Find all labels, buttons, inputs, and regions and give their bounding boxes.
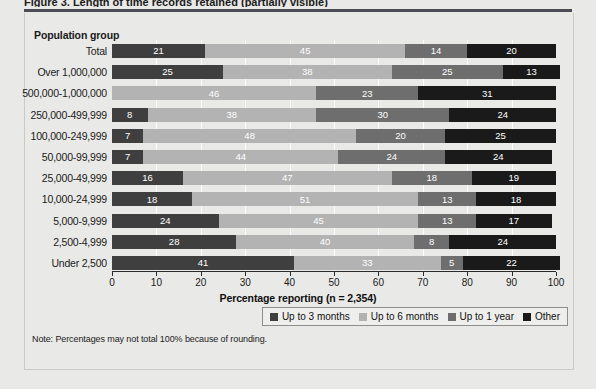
- bar-segment: 5: [441, 256, 463, 270]
- bar-segment: 25: [445, 129, 556, 143]
- chart-row: 500,000-1,000,0000462331: [0, 86, 596, 100]
- bar-segment: 7: [112, 150, 143, 164]
- x-axis-tick: [512, 272, 513, 276]
- bar-value-label: 13: [526, 67, 537, 77]
- x-axis-tick: [112, 272, 113, 276]
- bar-segment: 38: [148, 108, 317, 122]
- stacked-bar: 16471819: [0, 171, 596, 185]
- chart-row: 2,500-4,9992840824: [0, 235, 596, 249]
- bar-value-label: 18: [426, 173, 437, 183]
- legend-item[interactable]: Up to 3 months: [270, 311, 350, 322]
- stacked-bar: 0462331: [0, 86, 596, 100]
- bar-value-label: 14: [431, 46, 442, 56]
- bar-segment: 18: [392, 171, 472, 185]
- bar-value-label: 24: [386, 152, 397, 162]
- bar-value-label: 38: [302, 67, 313, 77]
- bar-value-label: 17: [509, 216, 520, 226]
- legend-item[interactable]: Up to 1 year: [448, 311, 514, 322]
- legend-label: Other: [535, 311, 560, 322]
- x-axis-tick-label: 90: [492, 277, 532, 288]
- bar-value-label: 20: [506, 46, 517, 56]
- stacked-bar: 8383024: [0, 108, 596, 122]
- stacked-bar: 2840824: [0, 235, 596, 249]
- bar-segment: 7: [112, 129, 143, 143]
- bar-value-label: 38: [227, 110, 238, 120]
- bar-segment: 51: [192, 192, 418, 206]
- bar-value-label: 24: [497, 110, 508, 120]
- bar-value-label: 51: [300, 195, 311, 205]
- bar-segment: 13: [503, 65, 561, 79]
- bar-segment: 8: [414, 235, 450, 249]
- x-axis-tick: [423, 272, 424, 276]
- bar-segment: 19: [472, 171, 556, 185]
- bar-segment: 17: [476, 214, 551, 228]
- x-axis-tick-label: 60: [358, 277, 398, 288]
- bar-segment: 25: [112, 65, 223, 79]
- bar-value-label: 40: [320, 237, 331, 247]
- x-axis-tick: [378, 272, 379, 276]
- bar-segment: 45: [219, 214, 419, 228]
- bar-segment: 14: [405, 44, 467, 58]
- legend-swatch-icon: [448, 313, 456, 321]
- stacked-bar: 21451420: [0, 44, 596, 58]
- stacked-bar: 4133522: [0, 256, 596, 270]
- bar-segment: 20: [356, 129, 445, 143]
- legend-item[interactable]: Up to 6 months: [359, 311, 439, 322]
- x-axis-tick-label: 40: [270, 277, 310, 288]
- bar-segment: 8: [112, 108, 148, 122]
- chart-row: Total21451420: [0, 44, 596, 58]
- chart-row: 250,000-499,9998383024: [0, 108, 596, 122]
- x-axis-tick-label: 80: [447, 277, 487, 288]
- bar-segment: 30: [316, 108, 449, 122]
- bar-segment: 31: [418, 86, 556, 100]
- bar-value-label: 25: [442, 67, 453, 77]
- bar-segment: 22: [463, 256, 561, 270]
- bar-segment: 13: [418, 214, 476, 228]
- chart-legend: Up to 3 monthsUp to 6 monthsUp to 1 year…: [262, 307, 568, 326]
- bar-value-label: 25: [162, 67, 173, 77]
- stacked-bar: 18511318: [0, 192, 596, 206]
- bar-value-label: 20: [395, 131, 406, 141]
- bar-value-label: 41: [198, 258, 209, 268]
- bar-value-label: 25: [495, 131, 506, 141]
- chart-row: 25,000-49,99916471819: [0, 171, 596, 185]
- x-axis-tick: [334, 272, 335, 276]
- bar-value-label: 24: [160, 216, 171, 226]
- bar-segment: 18: [112, 192, 192, 206]
- bar-segment: 45: [205, 44, 405, 58]
- legend-swatch-icon: [523, 313, 531, 321]
- chart-row: Over 1,000,00025382513: [0, 65, 596, 79]
- x-axis-tick-label: 20: [181, 277, 221, 288]
- chart-row: 5,000-9,99924451317: [0, 214, 596, 228]
- legend-label: Up to 1 year: [460, 311, 514, 322]
- bar-value-label: 28: [169, 237, 180, 247]
- chart-row: 100,000-249,9997482025: [0, 129, 596, 143]
- bar-value-label: 22: [506, 258, 517, 268]
- bar-segment: 13: [418, 192, 476, 206]
- x-axis-tick: [201, 272, 202, 276]
- bar-segment: 24: [449, 108, 556, 122]
- bar-value-label: 30: [378, 110, 389, 120]
- bar-value-label: 33: [362, 258, 373, 268]
- bar-segment: 20: [467, 44, 556, 58]
- chart-row: 10,000-24,99918511318: [0, 192, 596, 206]
- x-axis-tick-label: 50: [314, 277, 354, 288]
- legend-label: Up to 6 months: [371, 311, 439, 322]
- bar-value-label: 13: [442, 216, 453, 226]
- bar-segment: 47: [183, 171, 392, 185]
- bar-value-label: 24: [497, 237, 508, 247]
- bar-segment: 46: [112, 86, 316, 100]
- bar-value-label: 44: [235, 152, 246, 162]
- bar-value-label: 23: [362, 89, 373, 99]
- bar-value-label: 31: [482, 89, 493, 99]
- x-axis-tick-label: 0: [92, 277, 132, 288]
- stacked-bar: 7482025: [0, 129, 596, 143]
- bar-segment: 23: [316, 86, 418, 100]
- bar-segment: 41: [112, 256, 294, 270]
- bar-value-label: 5: [449, 258, 454, 268]
- x-axis-title: Percentage reporting (n = 2,354): [0, 292, 596, 304]
- figure-page: Figure 3. Length of time records retaine…: [0, 0, 596, 389]
- legend-item[interactable]: Other: [523, 311, 560, 322]
- bar-segment: 40: [236, 235, 414, 249]
- chart-plot-area: Total21451420Over 1,000,00025382513500,0…: [0, 0, 596, 389]
